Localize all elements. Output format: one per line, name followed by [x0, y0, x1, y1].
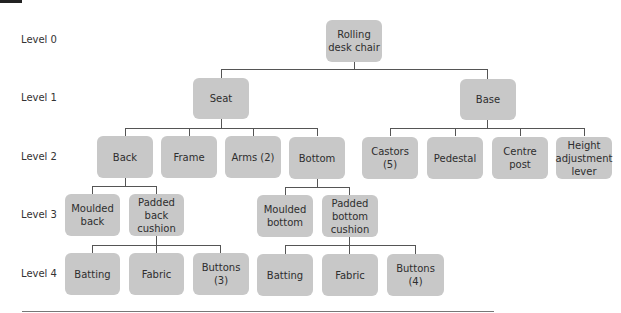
connector — [92, 186, 157, 187]
level-1-label: Level 1 — [21, 92, 57, 103]
connector — [285, 187, 350, 188]
connector — [156, 186, 157, 194]
connector — [285, 187, 286, 195]
connector — [390, 128, 391, 136]
node-bottom-batting: Batting — [257, 254, 313, 296]
node-rolling-desk-chair: Rolling desk chair — [326, 20, 382, 62]
node-height-adjustment-lever: Height adjustment lever — [556, 137, 612, 179]
node-back: Back — [97, 136, 153, 178]
node-back-fabric: Fabric — [129, 253, 184, 295]
connector — [125, 128, 126, 136]
level-0-label: Level 0 — [21, 34, 57, 45]
connector — [317, 178, 318, 187]
connector — [189, 128, 190, 136]
node-back-batting: Batting — [65, 253, 120, 295]
connector — [253, 128, 254, 136]
connector — [349, 187, 350, 195]
level-3-label: Level 3 — [21, 209, 57, 220]
connector — [317, 128, 318, 136]
connector — [221, 69, 488, 70]
node-pedestal: Pedestal — [427, 137, 483, 179]
connector — [487, 69, 488, 79]
node-padded-bottom-cushion: Padded bottom cushion — [322, 195, 378, 237]
corner-mark — [0, 0, 22, 3]
level-2-label: Level 2 — [21, 151, 57, 162]
node-centre-post: Centre post — [492, 137, 548, 179]
node-moulded-back: Moulded back — [65, 194, 120, 236]
node-base: Base — [460, 79, 516, 120]
connector — [584, 128, 585, 136]
node-bottom-fabric: Fabric — [322, 254, 378, 296]
connector — [92, 186, 93, 194]
connector — [125, 128, 318, 129]
connector — [520, 128, 521, 136]
connector — [221, 119, 222, 128]
node-bottom: Bottom — [289, 137, 345, 179]
bottom-rule — [22, 311, 494, 312]
connector — [285, 245, 286, 254]
node-back-buttons: Buttons (3) — [193, 253, 249, 295]
connector — [285, 245, 416, 246]
connector — [221, 69, 222, 78]
connector — [92, 245, 221, 246]
connector — [455, 128, 456, 136]
connector — [415, 245, 416, 254]
connector — [92, 245, 93, 253]
node-frame: Frame — [161, 136, 217, 178]
node-arms: Arms (2) — [225, 136, 281, 178]
connector — [220, 245, 221, 253]
connector — [125, 178, 126, 186]
node-castors: Castors (5) — [362, 137, 418, 179]
connector — [487, 120, 488, 128]
connector — [390, 128, 585, 129]
level-4-label: Level 4 — [21, 268, 57, 279]
node-padded-back-cushion: Padded back cushion — [129, 194, 184, 236]
node-seat: Seat — [193, 78, 249, 119]
node-moulded-bottom: Moulded bottom — [257, 195, 313, 237]
node-bottom-buttons: Buttons (4) — [387, 254, 444, 296]
